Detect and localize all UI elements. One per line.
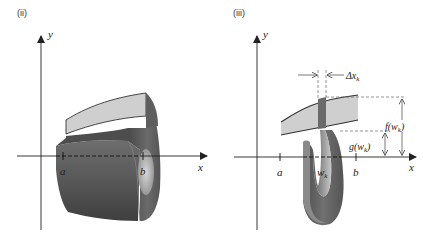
solid-of-revolution bbox=[56, 93, 160, 221]
tick-label-a: a bbox=[60, 165, 66, 177]
x-axis-label: x bbox=[408, 161, 414, 173]
representative-rectangle bbox=[318, 97, 326, 129]
panel-ii: (ii) y x a b bbox=[17, 8, 207, 230]
delta-x-label: Δxk bbox=[345, 70, 360, 83]
panel-label: (ii) bbox=[17, 8, 27, 18]
g-label: g(wk) bbox=[349, 141, 371, 154]
panel-label: (iii) bbox=[233, 8, 245, 18]
panel-iii: (iii) y x a b wk bbox=[233, 8, 416, 230]
y-axis-label: y bbox=[47, 28, 53, 40]
x-axis-label: x bbox=[197, 161, 203, 173]
tick-label-a: a bbox=[277, 166, 283, 178]
figure: (ii) y x a b bbox=[0, 0, 423, 244]
y-axis-label: y bbox=[262, 28, 268, 40]
region bbox=[281, 95, 358, 135]
tick-label-b: b bbox=[140, 165, 146, 177]
tick-label-b: b bbox=[353, 166, 359, 178]
delta-x-annotation: Δxk bbox=[298, 70, 360, 99]
